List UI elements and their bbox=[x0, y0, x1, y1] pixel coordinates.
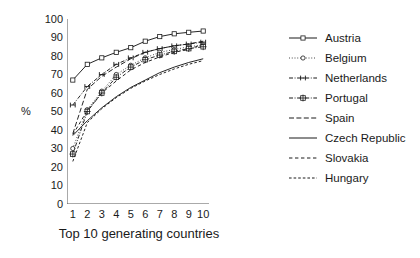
legend-label: Portugal bbox=[325, 92, 368, 105]
y-tick-label: 70 bbox=[51, 69, 63, 80]
legend-label: Austria bbox=[325, 32, 361, 45]
y-tick-label: 40 bbox=[51, 125, 63, 136]
legend-swatch-icon bbox=[288, 151, 318, 165]
x-tick-label: 10 bbox=[195, 208, 211, 220]
y-tick-label: 10 bbox=[51, 180, 63, 191]
legend-label: Slovakia bbox=[325, 152, 368, 165]
legend-item-spain[interactable]: Spain bbox=[288, 108, 418, 128]
plot-area bbox=[67, 19, 209, 204]
series-spain bbox=[73, 41, 203, 134]
legend-swatch-icon bbox=[288, 111, 318, 125]
y-tick-label: 90 bbox=[51, 32, 63, 43]
y-tick-label: 80 bbox=[51, 51, 63, 62]
series-slovakia bbox=[73, 44, 203, 135]
legend-item-austria[interactable]: Austria bbox=[288, 28, 418, 48]
series-hungary bbox=[73, 61, 203, 162]
series-belgium bbox=[71, 43, 206, 151]
series-canvas bbox=[67, 19, 209, 204]
line-chart: 0102030405060708090100 % 12345678910 Top… bbox=[0, 0, 420, 258]
legend-item-portugal[interactable]: Portugal bbox=[288, 88, 418, 108]
legend-swatch-icon bbox=[288, 51, 318, 65]
legend-label: Netherlands bbox=[325, 72, 387, 85]
y-tick-label: 60 bbox=[51, 88, 63, 99]
legend-label: Belgium bbox=[325, 52, 367, 65]
y-tick-label: 20 bbox=[51, 162, 63, 173]
legend-item-hungary[interactable]: Hungary bbox=[288, 168, 418, 188]
y-tick-label: 50 bbox=[51, 106, 63, 117]
series-portugal bbox=[69, 43, 206, 157]
x-axis-tick-labels: 12345678910 bbox=[0, 208, 230, 224]
legend-swatch-icon bbox=[288, 71, 318, 85]
legend: AustriaBelgiumNetherlandsPortugalSpainCz… bbox=[288, 28, 418, 188]
legend-swatch-icon bbox=[288, 171, 318, 185]
legend-swatch-icon bbox=[288, 31, 318, 45]
legend-label: Spain bbox=[325, 112, 354, 125]
y-tick-label: 30 bbox=[51, 143, 63, 154]
series-czech-republic bbox=[73, 59, 203, 136]
x-axis-title: Top 10 generating countries bbox=[0, 226, 278, 241]
legend-label: Czech Republic bbox=[325, 132, 406, 145]
legend-item-czech-republic[interactable]: Czech Republic bbox=[288, 128, 418, 148]
legend-label: Hungary bbox=[325, 172, 368, 185]
y-tick-label: 100 bbox=[45, 14, 63, 25]
legend-item-belgium[interactable]: Belgium bbox=[288, 48, 418, 68]
legend-item-netherlands[interactable]: Netherlands bbox=[288, 68, 418, 88]
legend-swatch-icon bbox=[288, 131, 318, 145]
legend-swatch-icon bbox=[288, 91, 318, 105]
legend-item-slovakia[interactable]: Slovakia bbox=[288, 148, 418, 168]
y-axis-title: % bbox=[21, 105, 31, 117]
